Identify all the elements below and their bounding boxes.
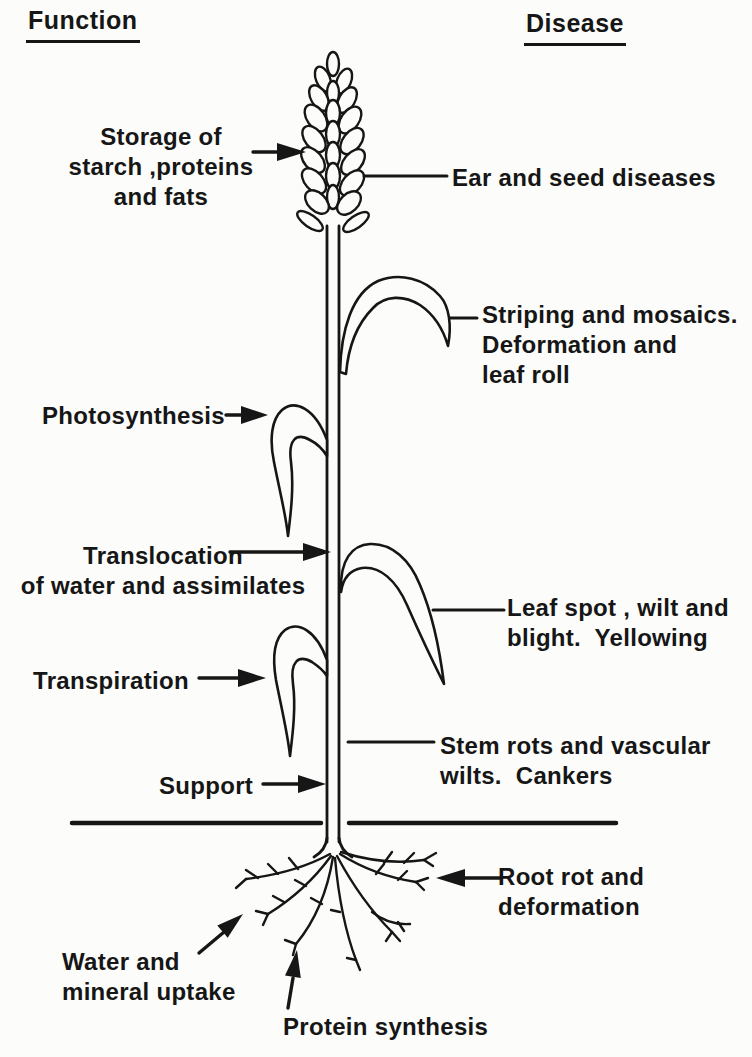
photosynthesis-arrow-icon xyxy=(226,406,268,424)
root-rot-arrow-icon xyxy=(436,869,500,887)
leaf-upper-right xyxy=(340,277,450,374)
striping-mosaics-disease-label: Striping and mosaics. Deformation and le… xyxy=(482,300,738,390)
leaf-lower-left xyxy=(274,627,327,756)
photosynthesis-function-label: Photosynthesis xyxy=(42,401,225,431)
translocation-function-label: Translocation of water and assimilates xyxy=(3,541,323,601)
leaf-spot-disease-label: Leaf spot , wilt and blight. Yellowing xyxy=(507,593,729,653)
support-function-label: Support xyxy=(159,771,253,801)
transpiration-function-label: Transpiration xyxy=(33,666,189,696)
water-mineral-uptake-function-label: Water and mineral uptake xyxy=(62,947,236,1007)
protein-synthesis-arrow-icon xyxy=(285,950,301,1008)
root-rot-disease-label: Root rot and deformation xyxy=(498,862,644,922)
stem-rots-disease-label: Stem rots and vascular wilts. Cankers xyxy=(440,731,711,791)
root-system xyxy=(236,852,436,970)
disease-column-header: Disease xyxy=(524,9,626,46)
storage-function-label: Storage of starch ,proteins and fats xyxy=(61,122,261,212)
leaves xyxy=(272,277,450,756)
plant-function-disease-diagram: Function Disease Storage of starch ,prot… xyxy=(0,0,752,1057)
ear-seed-disease-label: Ear and seed diseases xyxy=(452,163,716,193)
function-column-header: Function xyxy=(26,6,140,43)
transpiration-arrow-icon xyxy=(199,669,266,687)
wheat-ear-icon xyxy=(294,52,371,236)
support-arrow-icon xyxy=(263,775,326,793)
leaf-mid-left xyxy=(272,406,327,536)
leaf-mid-right xyxy=(341,544,444,684)
protein-synthesis-function-label: Protein synthesis xyxy=(283,1012,488,1042)
